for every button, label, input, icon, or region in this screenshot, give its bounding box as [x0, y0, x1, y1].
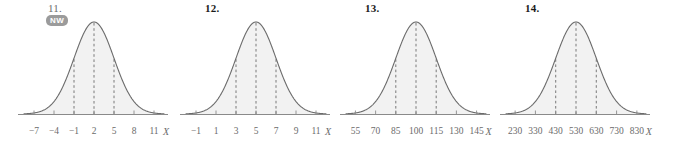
tick-label: 330: [528, 126, 542, 137]
tick-label: 115: [429, 126, 443, 137]
tick-label: 70: [371, 126, 381, 137]
problem-block-13: 13.557085100115130145X: [340, 0, 500, 144]
x-axis-variable-label: X: [486, 126, 492, 137]
tick-label: 5: [254, 126, 259, 137]
tick-label: 630: [589, 126, 603, 137]
problem-block-12: 12.−11357911X: [180, 0, 340, 144]
tick-label: 7: [274, 126, 279, 137]
tick-label: 55: [351, 126, 361, 137]
x-axis-variable-label: X: [325, 126, 331, 137]
x-axis-variable-label: X: [163, 126, 169, 137]
problem-block-11: 11.NW−7−4−125811X: [18, 0, 178, 144]
tick-label: −4: [49, 126, 59, 137]
tick-label: 145: [469, 126, 483, 137]
tick-label: 11: [149, 126, 158, 137]
normal-curve-chart: [18, 12, 168, 120]
tick-label: 2: [92, 126, 97, 137]
tick-label: 5: [112, 126, 117, 137]
tick-label: 100: [409, 126, 423, 137]
tick-label: 530: [569, 126, 583, 137]
problem-block-14: 14.230330430530630730830X: [500, 0, 660, 144]
normal-curve-chart: [340, 12, 490, 120]
x-axis-tick-labels: 557085100115130145X: [340, 126, 500, 140]
normal-curve-chart: [500, 12, 650, 120]
tick-label: 730: [609, 126, 623, 137]
tick-label: 11: [311, 126, 320, 137]
x-axis-tick-labels: −11357911X: [180, 126, 340, 140]
tick-label: 3: [234, 126, 239, 137]
tick-label: 85: [391, 126, 401, 137]
tick-label: 9: [294, 126, 299, 137]
normal-curves-figure-row: 11.NW−7−4−125811X12.−11357911X13.5570851…: [0, 0, 687, 144]
tick-label: −1: [191, 126, 201, 137]
tick-label: −7: [29, 126, 39, 137]
x-axis-variable-label: X: [646, 126, 652, 137]
tick-label: −1: [69, 126, 79, 137]
tick-label: 830: [630, 126, 644, 137]
tick-label: 130: [449, 126, 463, 137]
tick-label: 230: [508, 126, 522, 137]
x-axis-tick-labels: −7−4−125811X: [18, 126, 178, 140]
x-axis-tick-labels: 230330430530630730830X: [500, 126, 660, 140]
tick-label: 8: [132, 126, 137, 137]
tick-label: 1: [214, 126, 219, 137]
normal-curve-chart: [180, 12, 330, 120]
tick-label: 430: [549, 126, 563, 137]
